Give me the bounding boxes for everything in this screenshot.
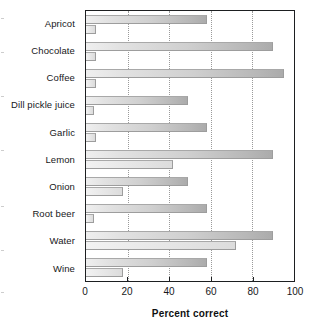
bar (86, 241, 236, 250)
x-axis-tick-label: 100 (287, 285, 304, 299)
bar (86, 15, 207, 24)
category-label: Water (0, 228, 80, 255)
bar-group (86, 119, 294, 146)
bar (86, 160, 173, 169)
bar (86, 214, 94, 223)
bar (86, 96, 188, 105)
bar (86, 204, 207, 213)
category-axis-labels: ApricotChocolateCoffeeDill pickle juiceG… (0, 10, 80, 282)
x-axis-tick-label: 60 (205, 285, 216, 299)
x-axis-tick-label: 40 (163, 285, 174, 299)
bar (86, 231, 273, 240)
bar (86, 106, 94, 115)
bar (86, 150, 273, 159)
bar-group (86, 146, 294, 173)
x-axis-title: Percent correct (85, 308, 295, 319)
plot-area (85, 10, 295, 282)
category-label: Wine (0, 255, 80, 282)
bar-group (86, 200, 294, 227)
bar-group (86, 65, 294, 92)
category-label: Lemon (0, 146, 80, 173)
category-label: Apricot (0, 10, 80, 37)
bar-group (86, 254, 294, 281)
edge-mark (1, 292, 4, 293)
bar-group (86, 11, 294, 38)
x-axis-tick-label: 0 (82, 285, 88, 299)
bar (86, 268, 123, 277)
category-label: Chocolate (0, 37, 80, 64)
category-label: Dill pickle juice (0, 92, 80, 119)
bar (86, 69, 284, 78)
x-axis-tick-label: 20 (121, 285, 132, 299)
bar (86, 52, 96, 61)
bar (86, 133, 96, 142)
bar (86, 25, 96, 34)
bar-group (86, 227, 294, 254)
category-label: Garlic (0, 119, 80, 146)
category-label: Coffee (0, 64, 80, 91)
bar-chart: ApricotChocolateCoffeeDill pickle juiceG… (0, 0, 309, 335)
category-label: Onion (0, 173, 80, 200)
bar-group (86, 92, 294, 119)
bar (86, 187, 123, 196)
bars-layer (86, 11, 294, 281)
bar (86, 123, 207, 132)
category-label: Root beer (0, 200, 80, 227)
bar (86, 42, 273, 51)
x-axis-tick-label: 80 (247, 285, 258, 299)
x-axis-tick-labels: 020406080100 (85, 285, 295, 299)
bar (86, 177, 188, 186)
bar (86, 258, 207, 267)
bar-group (86, 173, 294, 200)
bar (86, 79, 96, 88)
bar-group (86, 38, 294, 65)
